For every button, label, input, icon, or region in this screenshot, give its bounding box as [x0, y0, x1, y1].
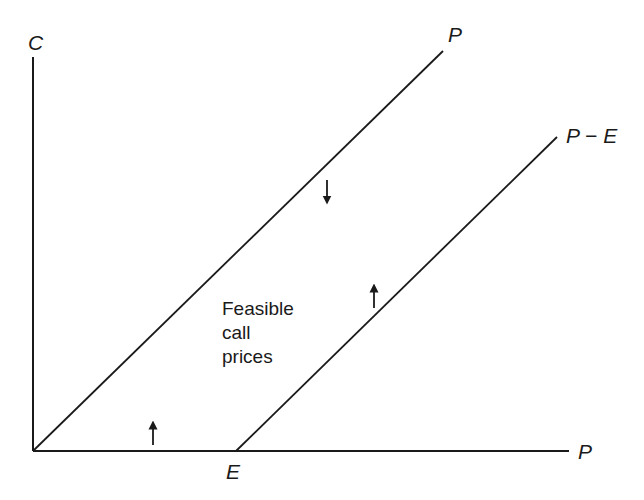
- feasible-region-label: Feasible call prices: [222, 297, 294, 369]
- upper-bound-line: [33, 51, 443, 451]
- region-line-1: Feasible: [222, 297, 294, 321]
- region-line-3: prices: [222, 345, 294, 369]
- exercise-price-label: E: [226, 461, 240, 482]
- lower-bound-label: P − E: [566, 125, 617, 146]
- region-line-2: call: [222, 321, 294, 345]
- x-axis-label: P: [578, 441, 592, 462]
- call-price-bounds-diagram: [0, 0, 644, 500]
- y-axis-label: C: [28, 32, 43, 53]
- upper-bound-label: P: [448, 24, 462, 45]
- lower-bound-line: [236, 137, 557, 451]
